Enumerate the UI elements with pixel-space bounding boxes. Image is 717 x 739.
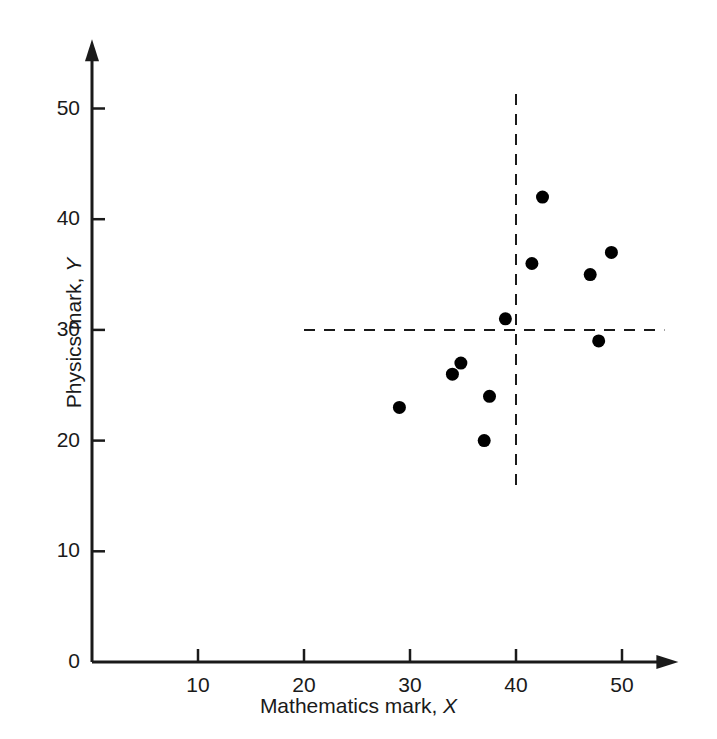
scatter-plot-figure: Physics mark, Y Mathematics mark, X 0102… — [0, 0, 717, 739]
data-point — [483, 390, 496, 403]
x-axis-arrowhead — [656, 655, 678, 669]
plot-canvas — [0, 0, 717, 739]
x-axis-label-text: Mathematics mark, — [260, 694, 437, 717]
data-points-group — [393, 191, 618, 448]
data-point — [592, 334, 605, 347]
data-point — [478, 434, 491, 447]
x-axis-tick-label: 20 — [274, 673, 334, 697]
y-axis-tick-label: 30 — [57, 317, 80, 341]
x-axis-label-variable: X — [443, 694, 457, 717]
x-axis-tick-label: 30 — [380, 673, 440, 697]
x-axis-label: Mathematics mark, X — [0, 694, 717, 718]
x-axis-tick-label: 40 — [486, 673, 546, 697]
reference-lines-group — [304, 86, 664, 485]
data-point — [446, 368, 459, 381]
axes-group — [85, 39, 678, 669]
x-axis-tick-label: 50 — [592, 673, 652, 697]
y-axis-tick-label: 10 — [57, 538, 80, 562]
data-point — [454, 357, 467, 370]
y-axis-tick-label: 0 — [68, 649, 80, 673]
data-point — [605, 246, 618, 259]
y-axis-label-variable: Y — [62, 258, 85, 272]
y-axis-tick-label: 50 — [57, 96, 80, 120]
x-axis-tick-label: 10 — [168, 673, 228, 697]
data-point — [584, 268, 597, 281]
data-point — [499, 312, 512, 325]
data-point — [525, 257, 538, 270]
data-point — [536, 191, 549, 204]
y-axis-label-text: Physics mark, — [62, 278, 85, 409]
y-axis-tick-label: 20 — [57, 428, 80, 452]
data-point — [393, 401, 406, 414]
y-axis-tick-label: 40 — [57, 206, 80, 230]
